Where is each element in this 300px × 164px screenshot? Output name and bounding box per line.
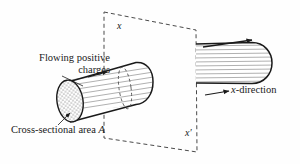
label-flowing-charges: Flowing positive charges <box>16 52 110 77</box>
label-plane-bottom-x-prime: x′ <box>185 127 192 139</box>
label-x-direction: x-direction <box>231 84 277 96</box>
label-cross-sectional-prefix: Cross-sectional area <box>11 124 98 135</box>
label-plane-top-x: x <box>117 20 121 32</box>
label-cross-sectional-area: Cross-sectional area A <box>6 124 110 136</box>
label-x-direction-suffix: -direction <box>236 84 277 95</box>
physics-current-diagram: Flowing positive charges Cross-sectional… <box>0 0 300 164</box>
conductor-segment-right <box>190 42 278 84</box>
x-direction-arrow <box>205 91 229 95</box>
label-area-symbol: A <box>99 124 105 135</box>
diagram-canvas <box>0 0 300 164</box>
